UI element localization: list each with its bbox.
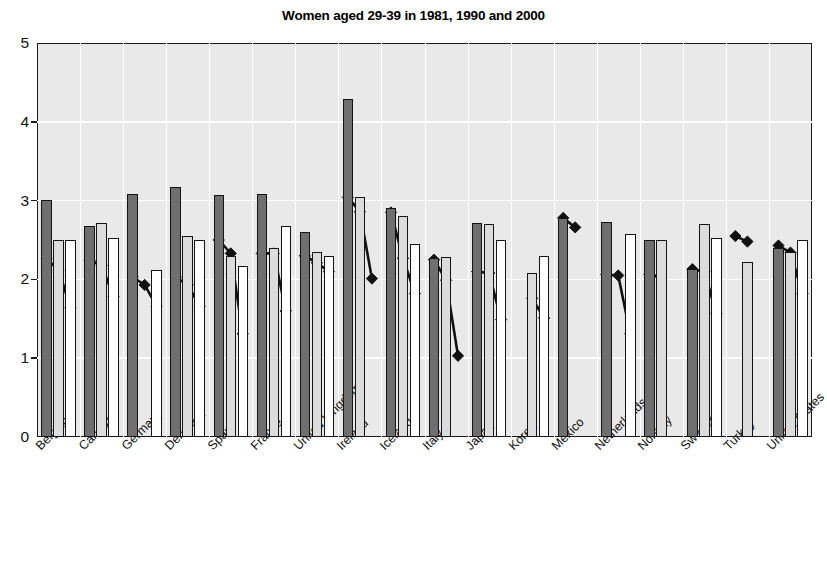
bar-2000-united-kingdom (324, 256, 335, 437)
bar-1981-united-kingdom (300, 232, 311, 437)
bar-1981-mexico (558, 218, 569, 437)
plot-area (37, 43, 812, 437)
bar-1981-japan (472, 223, 483, 437)
x-axis-labels: BelgiumCanadaGermanyDenmarkSpainFranceUn… (0, 437, 827, 564)
bar-1981-canada (84, 226, 95, 437)
y-tick-label: 5 (20, 35, 29, 51)
bar-2000-netherlands (625, 234, 636, 437)
bar-1981-denmark (170, 187, 181, 437)
bar-2000-germany (151, 270, 162, 437)
bar-1990-belgium (53, 240, 64, 437)
bar-1981-italy (429, 258, 440, 437)
bar-1990-france (269, 248, 280, 437)
chart-root: Women aged 29-39 in 1981, 1990 and 2000 … (0, 0, 827, 564)
bar-2000-spain (238, 266, 249, 437)
bar-1981-norway (644, 240, 655, 437)
bar-1981-netherlands (601, 222, 612, 437)
bar-1990-united-kingdom (312, 252, 323, 437)
bar-2000-france (281, 226, 292, 437)
bar-2000-korea (539, 256, 550, 437)
y-tick-label: 2 (20, 272, 29, 288)
y-tick-label: 1 (20, 350, 29, 366)
bar-1990-japan (484, 224, 495, 437)
data-point-marker (366, 273, 377, 284)
bar-2000-japan (496, 240, 507, 437)
data-point-marker (452, 350, 463, 361)
data-point-marker (730, 230, 741, 241)
bar-1990-denmark (182, 236, 193, 437)
bar-1990-turkey (742, 262, 753, 437)
bar-1990-italy (441, 257, 452, 437)
bar-2000-iceland (410, 244, 421, 437)
bar-2000-canada (108, 238, 119, 437)
bar-2000-united-states (797, 240, 808, 437)
bar-1990-ireland (355, 197, 366, 437)
bar-2000-belgium (65, 240, 76, 437)
bar-1981-united-states (773, 248, 784, 437)
bar-1981-france (257, 194, 268, 437)
bar-2000-denmark (194, 240, 205, 437)
chart-title: Women aged 29-39 in 1981, 1990 and 2000 (0, 8, 827, 23)
y-axis: 012345 (0, 43, 37, 437)
bar-1981-spain (214, 195, 225, 437)
data-point-marker (613, 270, 624, 281)
bar-2000-sweden (711, 238, 722, 437)
bar-1990-canada (96, 223, 107, 437)
bar-1981-sweden (687, 269, 698, 437)
y-tick-label: 3 (20, 193, 29, 209)
bar-1990-iceland (398, 216, 409, 437)
bar-1981-ireland (343, 99, 354, 437)
bar-1981-germany (127, 194, 138, 437)
y-tick-label: 4 (20, 114, 29, 130)
bar-1981-belgium (41, 200, 52, 437)
bar-1990-united-states (785, 252, 796, 437)
bar-1990-norway (656, 240, 667, 437)
bar-1990-spain (226, 256, 237, 437)
bar-1981-iceland (386, 208, 397, 437)
bar-1990-korea (527, 273, 538, 437)
data-point-marker (742, 236, 753, 247)
bar-1990-sweden (699, 224, 710, 437)
